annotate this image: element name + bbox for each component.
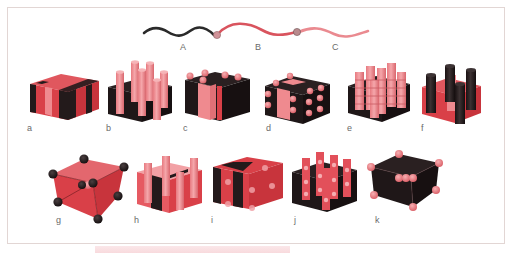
chain-label-c: C: [332, 42, 339, 52]
panel-f-cube: [422, 64, 481, 124]
panel-g-cube: [48, 154, 128, 223]
panel-b-cube: [108, 60, 172, 122]
panel-label-c: c: [183, 123, 188, 133]
morphology-illustration: [0, 0, 515, 253]
panel-label-d: d: [266, 123, 271, 133]
panel-label-a: a: [27, 123, 32, 133]
panel-label-k: k: [375, 215, 380, 225]
panel-c-cube: [185, 70, 250, 122]
panel-label-g: g: [56, 215, 61, 225]
panel-label-j: j: [294, 215, 296, 225]
panel-h-cube: [137, 156, 202, 213]
block-b-segment: [218, 24, 296, 35]
panel-a-cube: [30, 74, 99, 120]
panel-label-h: h: [134, 215, 139, 225]
panel-label-i: i: [211, 215, 213, 225]
junction-ab: [213, 31, 220, 38]
panel-label-f: f: [421, 123, 424, 133]
chain-label-b: B: [255, 42, 261, 52]
panel-label-e: e: [347, 123, 352, 133]
block-a-segment: [144, 28, 214, 36]
panel-d-cube: [265, 73, 330, 124]
chain-label-a: A: [180, 42, 186, 52]
panel-i-cube: [213, 157, 283, 211]
panel-label-b: b: [106, 123, 111, 133]
block-c-segment: [299, 28, 368, 36]
panel-k-cube: [367, 150, 443, 211]
panel-e-cube: [348, 63, 410, 122]
triblock-chain: [144, 24, 368, 39]
junction-bc: [293, 28, 300, 35]
panel-j-cube: [292, 152, 357, 212]
